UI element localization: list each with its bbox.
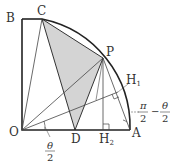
svg-text:2: 2 — [162, 113, 168, 124]
right-angle-H2 — [103, 124, 109, 130]
label-H1: H1 — [126, 73, 141, 88]
shaded-triangle-CPD — [42, 19, 103, 130]
svg-text:2: 2 — [140, 113, 146, 124]
label-D: D — [71, 132, 81, 146]
label-O: O — [9, 125, 19, 139]
leader-theta-half — [45, 127, 50, 137]
label-P: P — [106, 45, 114, 59]
label-theta-half: θ 2 — [45, 140, 55, 163]
svg-text:π: π — [139, 100, 147, 111]
angle-arc-theta-half — [44, 121, 45, 130]
geometry-diagram: B C P O D A H2 H1 θ 2 π 2 − θ 2 — [0, 0, 176, 163]
svg-text:−: − — [151, 106, 159, 117]
label-H2: H2 — [99, 132, 114, 147]
segment-OC — [22, 19, 42, 130]
label-B: B — [6, 11, 15, 25]
label-C: C — [37, 4, 46, 18]
svg-text:θ: θ — [162, 100, 168, 111]
svg-text:2: 2 — [47, 152, 53, 163]
svg-text:θ: θ — [47, 140, 53, 151]
label-A: A — [131, 126, 141, 140]
label-pi-half-minus-theta-half: π 2 − θ 2 — [138, 100, 170, 124]
